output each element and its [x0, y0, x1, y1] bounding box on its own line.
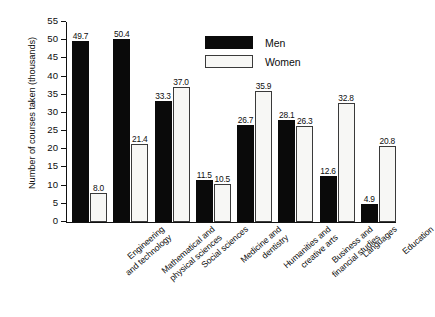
bar-value-label: 35.9 [256, 81, 272, 91]
bar-value-label: 33.3 [155, 91, 171, 101]
bar-men: 28.1 [278, 120, 295, 222]
bar-value-label: 11.5 [197, 170, 212, 180]
x-axis-labels: Engineeringand technologyMathematical an… [66, 224, 410, 317]
bar-women: 37.0 [173, 87, 190, 222]
bar-women: 21.4 [131, 144, 148, 222]
bar-value-label: 28.1 [279, 110, 295, 120]
legend-label: Women [265, 56, 301, 68]
bar-value-label: 4.9 [364, 194, 375, 204]
y-tick-label: 35 [28, 88, 58, 99]
bar-men: 49.7 [72, 41, 89, 222]
bar-women: 26.3 [296, 126, 313, 222]
chart-legend: MenWomen [205, 36, 301, 74]
bar-value-label: 32.8 [338, 93, 354, 103]
bar-men: 11.5 [196, 180, 213, 222]
bar-value-label: 26.7 [238, 115, 254, 125]
bar-value-label: 12.6 [320, 166, 336, 176]
bar-women: 10.5 [214, 184, 231, 222]
bar-men: 33.3 [155, 101, 172, 222]
legend-swatch-women [205, 55, 253, 68]
legend-swatch-men [205, 36, 253, 49]
bar-value-label: 26.3 [297, 116, 313, 126]
bar-value-label: 20.8 [379, 136, 395, 146]
y-tick-label: 5 [28, 197, 58, 208]
x-axis-label: Education [400, 224, 435, 257]
bar-value-label: 50.4 [114, 29, 130, 39]
bar-men: 26.7 [237, 125, 254, 222]
y-tick-label: 0 [28, 215, 58, 226]
y-tick-label: 30 [28, 106, 58, 117]
bar-value-label: 21.4 [132, 134, 148, 144]
legend-item-men: Men [205, 36, 301, 49]
legend-item-women: Women [205, 55, 301, 68]
bar-women: 32.8 [338, 103, 355, 222]
x-axis-line [66, 222, 396, 223]
bar-women: 8.0 [90, 193, 107, 222]
bar-men: 4.9 [361, 204, 378, 222]
bar-men: 12.6 [320, 176, 337, 222]
y-tick-label: 45 [28, 51, 58, 62]
bar-value-label: 37.0 [173, 77, 189, 87]
y-tick-label: 40 [28, 70, 58, 81]
y-tick-label: 10 [28, 179, 58, 190]
y-tick-label: 55 [28, 15, 58, 26]
y-tick-label: 50 [28, 33, 58, 44]
bar-women: 35.9 [255, 91, 272, 222]
bar-men: 50.4 [113, 39, 130, 222]
y-tick-label: 25 [28, 124, 58, 135]
bar-value-label: 49.7 [73, 31, 89, 41]
legend-label: Men [265, 37, 285, 49]
y-tick-label: 20 [28, 142, 58, 153]
y-tick-label: 15 [28, 160, 58, 171]
bar-women: 20.8 [379, 146, 396, 222]
bar-value-label: 10.5 [214, 174, 230, 184]
x-axis-label-line1: Education [400, 224, 435, 256]
bar-value-label: 8.0 [93, 183, 104, 193]
